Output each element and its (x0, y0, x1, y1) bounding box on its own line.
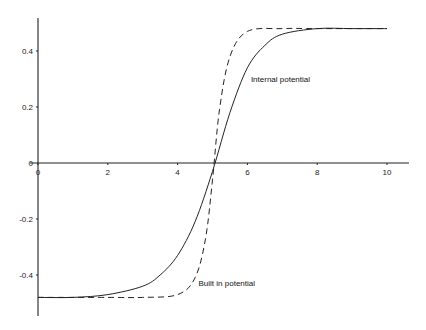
x-tick-label: 4 (175, 168, 180, 177)
axes (30, 18, 409, 316)
potential-chart: 02468100.40.20-0.2-0.4 Internal potentia… (0, 0, 426, 330)
x-tick-label: 6 (245, 168, 250, 177)
y-tick-label: 0 (29, 159, 34, 168)
y-tick-label: -0.2 (19, 215, 33, 224)
x-tick-label: 2 (106, 168, 111, 177)
annotations: Internal potentialBuilt in potential (199, 75, 311, 288)
y-tick-label: 0.4 (22, 47, 34, 56)
built-in-potential-label: Built in potential (199, 279, 256, 288)
y-tick-label: -0.4 (19, 271, 33, 280)
x-tick-label: 8 (315, 168, 320, 177)
y-tick-label: 0.2 (22, 103, 34, 112)
x-tick-label: 0 (36, 168, 41, 177)
internal-potential-label: Internal potential (251, 75, 310, 84)
x-tick-label: 10 (383, 168, 392, 177)
